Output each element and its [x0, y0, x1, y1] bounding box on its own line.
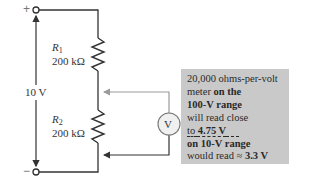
positive-terminal-icon	[33, 7, 39, 13]
r1-letter: R	[52, 41, 59, 53]
note-line-7: would read ≈ 3.3 V	[187, 150, 284, 163]
note-line-1: 20,000 ohms-per-volt	[187, 73, 284, 86]
note-line-7-plain: would read ≈	[187, 150, 245, 161]
probe-wire-negative	[104, 135, 169, 155]
top-wire	[39, 10, 98, 38]
r2-subscript: 2	[59, 118, 63, 127]
bottom-wire	[39, 143, 98, 172]
negative-sign: −	[23, 165, 30, 177]
note-line-7-bold: 3.3 V	[245, 150, 268, 161]
resistor-r2-icon	[92, 110, 104, 143]
r2-letter: R	[52, 113, 59, 125]
note-line-2: meter on the	[187, 86, 284, 99]
r1-subscript: 1	[59, 46, 63, 55]
note-line-4: will read close	[187, 112, 284, 125]
note-line-3: 100-V range	[187, 99, 284, 112]
note-line-5-plain: to	[187, 125, 198, 136]
note-line-5: to 4.75 V	[187, 125, 284, 138]
note-line-6: on 10-V range	[187, 138, 284, 151]
annotation-box: 20,000 ohms-per-volt meter on the 100-V …	[181, 69, 289, 164]
note-line-3-bold: 100-V range	[187, 99, 242, 110]
note-line-6-bold: on 10-V range	[187, 138, 250, 149]
note-line-2-bold: on the	[214, 86, 242, 97]
resistor-r1-icon	[92, 38, 104, 71]
source-voltage-label: 10 V	[24, 87, 48, 98]
r2-value: 200 kΩ	[52, 128, 85, 139]
negative-terminal-icon	[33, 169, 39, 175]
positive-sign: +	[23, 3, 30, 15]
note-line-5-bold: 4.75 V	[198, 125, 226, 136]
probe-wire-positive	[104, 92, 169, 113]
note-line-2-plain: meter	[187, 86, 214, 97]
r1-value: 200 kΩ	[52, 56, 85, 67]
r1-name: R1	[52, 42, 63, 56]
r2-name: R2	[52, 114, 63, 128]
voltmeter-symbol: V	[164, 119, 172, 130]
note-line-5-dash	[226, 125, 239, 136]
